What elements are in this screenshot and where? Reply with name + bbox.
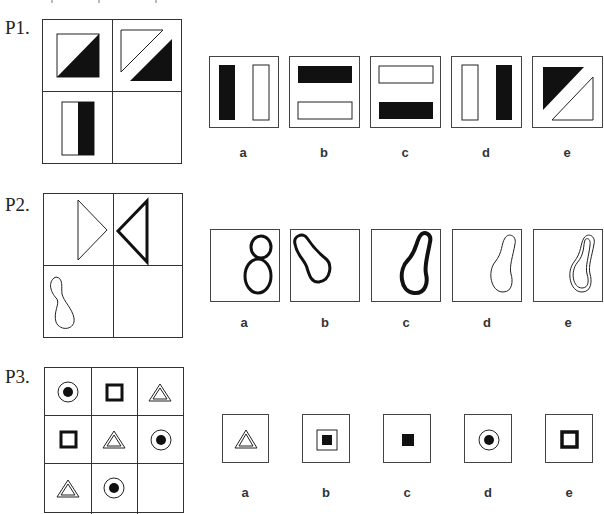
thick-peanut-figure [372, 230, 442, 303]
p3-option-a-label: a [235, 485, 255, 500]
circle-dot-figure [151, 430, 171, 450]
p1-option-e-label: e [557, 145, 577, 160]
p2-option-a[interactable] [210, 229, 280, 302]
problem-label-p1: P1. [5, 17, 30, 39]
p2-option-e-label: e [558, 315, 578, 330]
p2-option-d[interactable] [452, 229, 522, 302]
p3-option-d[interactable] [464, 414, 512, 463]
p2-option-a-label: a [234, 315, 254, 330]
p2-matrix [43, 193, 183, 338]
black-white-vertical-bars-figure [210, 57, 280, 129]
p2-option-c-label: c [396, 315, 416, 330]
p2-matrix-figures [44, 194, 184, 339]
double-triangle-figure [57, 480, 79, 497]
double-line-peanut-figure [534, 230, 604, 303]
thick-peanut-figure [291, 230, 361, 303]
p1-option-a[interactable] [209, 56, 279, 128]
p3-option-c[interactable] [383, 414, 431, 463]
cropped-text-fragment [98, 0, 100, 3]
p1-matrix [42, 19, 182, 164]
p1-option-a-label: a [233, 145, 253, 160]
p3-option-c-label: c [397, 485, 417, 500]
p2-option-b-label: b [315, 315, 335, 330]
double-triangle-figure [223, 415, 270, 464]
circle-dot-figure [465, 415, 513, 464]
p3-option-d-label: d [478, 485, 498, 500]
problem-label-p2: P2. [5, 194, 30, 216]
double-triangle-figure [149, 384, 171, 401]
circle-dot-figure [104, 478, 124, 498]
p2-option-b[interactable] [290, 229, 360, 302]
p3-matrix-figures [45, 368, 185, 514]
p1-option-b[interactable] [289, 56, 360, 128]
white-black-vertical-bars-figure [452, 57, 523, 129]
cropped-text-fragment [51, 0, 53, 3]
problem-label-p3: P3. [5, 366, 30, 388]
p2-option-d-label: d [477, 315, 497, 330]
p1-option-e[interactable] [532, 56, 603, 128]
thick-square-figure [107, 385, 122, 400]
p3-option-e[interactable] [545, 414, 593, 463]
black-white-horizontal-bars-figure [290, 57, 361, 129]
p3-option-a[interactable] [222, 414, 269, 463]
p1-option-b-label: b [314, 145, 334, 160]
p3-matrix [44, 367, 184, 513]
p2-option-e[interactable] [533, 229, 603, 302]
square-in-square-figure [303, 415, 351, 464]
black-upper-white-lower-diagonal-figure [533, 57, 604, 129]
p1-option-c-label: c [395, 145, 415, 160]
square-black-triangle-figure [57, 34, 99, 77]
half-black-rectangle-figure [62, 102, 94, 155]
split-diagonal-figure [121, 30, 172, 81]
p1-option-d-label: d [476, 145, 496, 160]
thick-square-figure [546, 415, 594, 464]
small-black-square-figure [384, 415, 432, 464]
p3-option-e-label: e [559, 485, 579, 500]
figure-eight-figure [211, 230, 281, 303]
thick-square-figure [61, 432, 76, 447]
p1-option-c[interactable] [370, 56, 441, 128]
p1-option-d[interactable] [451, 56, 522, 128]
cropped-text-fragment [155, 0, 157, 3]
p3-option-b-label: b [316, 485, 336, 500]
white-black-horizontal-bars-figure [371, 57, 442, 129]
circle-dot-figure [58, 382, 78, 402]
double-triangle-figure [103, 431, 125, 448]
p1-matrix-figures [43, 20, 183, 165]
thin-peanut-figure [453, 230, 523, 303]
p3-option-b[interactable] [302, 414, 350, 463]
p2-option-c[interactable] [371, 229, 441, 302]
